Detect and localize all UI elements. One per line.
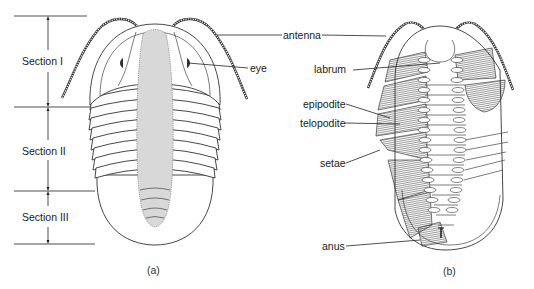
antenna-leader-right bbox=[322, 35, 386, 36]
eye-label: eye bbox=[250, 62, 267, 74]
epipodite-label: epipodite bbox=[303, 98, 346, 110]
setae-label: setae bbox=[320, 157, 346, 169]
section-ii-label: Section II bbox=[22, 145, 66, 157]
caption-b: (b) bbox=[443, 265, 456, 277]
section-i-label: Section I bbox=[22, 55, 63, 67]
setae-leader bbox=[346, 150, 380, 163]
telopodite-label: telopodite bbox=[300, 117, 346, 129]
section-scale bbox=[14, 16, 95, 244]
trilobite-ventral-view bbox=[368, 23, 513, 250]
anus-label: anus bbox=[322, 240, 345, 252]
antenna-label: antenna bbox=[283, 29, 321, 41]
trilobite-dorsal-view bbox=[62, 19, 247, 245]
trilobite-diagram: Section I Section II Section III bbox=[0, 0, 534, 289]
labrum-label: labrum bbox=[314, 63, 346, 75]
section-iii-label: Section III bbox=[22, 211, 69, 223]
caption-a: (a) bbox=[147, 264, 160, 276]
anus-leader bbox=[346, 240, 420, 246]
